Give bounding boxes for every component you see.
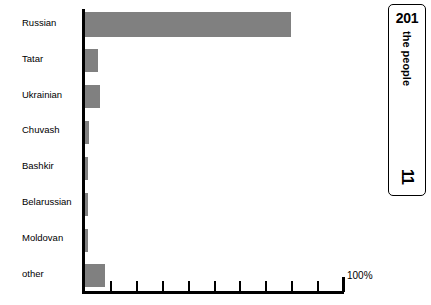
x-axis-tick (214, 281, 216, 291)
bar-other (84, 264, 105, 287)
plot-area (84, 8, 343, 293)
bar-ukrainian (84, 85, 100, 108)
category-label-russian: Russian (22, 17, 80, 28)
bar-russian (84, 12, 291, 37)
x-axis-line (82, 291, 344, 294)
x-axis-max-label: 100% (347, 270, 373, 282)
x-axis-end-tick (342, 277, 345, 292)
x-axis-tick (239, 281, 241, 291)
bar-chuvash (84, 121, 89, 144)
panel-vertical-label: the people (401, 31, 413, 86)
category-label-tatar: Tatar (22, 53, 80, 64)
bar-moldovan (84, 229, 88, 252)
panel-number-bottom-wrap: 11 (389, 159, 425, 193)
side-panel: 201 the people 11 (388, 4, 426, 196)
category-label-bashkir: Bashkir (22, 160, 80, 171)
bar-belarussian (84, 193, 88, 216)
category-label-moldovan: Moldovan (22, 232, 80, 243)
category-label-chuvash: Chuvash (22, 124, 80, 135)
x-axis-tick (265, 281, 267, 291)
bar-chart: Russian Tatar Ukrainian Chuvash Bashkir … (0, 0, 380, 305)
x-axis-tick (291, 281, 293, 291)
category-label-belarussian: Belarussian (22, 196, 80, 207)
panel-vertical-label-wrap: the people (389, 31, 425, 141)
bar-tatar (84, 49, 98, 72)
bar-bashkir (84, 157, 88, 180)
x-axis-tick (317, 281, 319, 291)
x-axis-tick (136, 281, 138, 291)
category-label-other: other (22, 268, 80, 279)
category-label-ukrainian: Ukrainian (22, 89, 80, 100)
panel-number-bottom: 11 (398, 169, 416, 184)
x-axis-tick (162, 281, 164, 291)
y-axis-line (82, 9, 85, 294)
x-axis-tick (188, 281, 190, 291)
x-axis-tick (110, 281, 112, 291)
panel-number-top: 201 (389, 11, 425, 26)
